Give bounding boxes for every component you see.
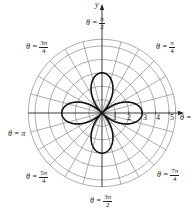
angle-label-pi-over-2: θ = π2 [86, 16, 105, 31]
fraction: π2 [99, 16, 105, 31]
x-tick-1: 1 [113, 114, 117, 122]
x-tick-3: 3 [143, 114, 147, 122]
angle-label-prefix: θ = [90, 196, 101, 205]
angle-label-prefix: θ = [156, 42, 167, 51]
grid-radial-line [102, 42, 121, 113]
denominator: 2 [100, 24, 104, 31]
angle-label-3pi-over-4: θ = 3π4 [26, 40, 48, 55]
x-tick-5: 5 [170, 114, 174, 122]
fraction: π4 [169, 40, 175, 55]
y-axis-arrow-icon [100, 4, 104, 10]
fraction: 3π2 [103, 194, 112, 209]
angle-label-pi: θ = π [8, 130, 25, 138]
angle-label-pi-over-4: θ = π4 [156, 40, 175, 55]
x-tick-4: 4 [156, 114, 160, 122]
grid-radial-line [50, 113, 102, 165]
grid-radial-line [83, 42, 102, 113]
angle-label-prefix: θ = [26, 172, 37, 181]
fraction: 3π4 [39, 40, 48, 55]
grid-radial-line [50, 61, 102, 113]
angle-label-prefix: θ = [86, 18, 97, 27]
grid-radial-line [83, 113, 102, 184]
grid-radial-line [102, 113, 121, 184]
angle-label-3pi-over-2: θ = 3π2 [90, 194, 112, 209]
angle-label-prefix: θ = [157, 170, 168, 179]
grid-radial-line [31, 113, 102, 132]
angle-label-prefix: θ = [26, 42, 37, 51]
denominator: 4 [42, 178, 46, 185]
angle-label-zero: θ = [180, 114, 191, 122]
denominator: 4 [170, 48, 174, 55]
grid-radial-line [102, 61, 154, 113]
grid-radial-line [31, 94, 102, 113]
grid-radial-line [102, 94, 173, 113]
denominator: 4 [173, 176, 177, 183]
fraction: 7π4 [170, 168, 179, 183]
denominator: 4 [42, 48, 46, 55]
angle-label-5pi-over-4: θ = 5π4 [26, 170, 48, 185]
angle-label-7pi-over-4: θ = 7π4 [157, 168, 179, 183]
y-axis-label: y [95, 1, 99, 9]
denominator: 2 [106, 202, 110, 209]
fraction: 5π4 [39, 170, 48, 185]
x-tick-2: 2 [127, 114, 131, 122]
